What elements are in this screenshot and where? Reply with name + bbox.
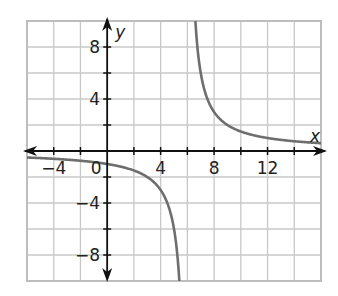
x-tick-label: 4 xyxy=(155,158,166,178)
y-tick-label: 4 xyxy=(89,89,100,109)
x-tick-label: 8 xyxy=(209,158,220,178)
rational-function-graph: −40481284−4−8xy xyxy=(0,0,338,296)
x-tick-label: −4 xyxy=(41,158,66,178)
x-tick-label: 0 xyxy=(91,158,102,178)
x-tick-label: 12 xyxy=(257,158,279,178)
y-tick-label: −8 xyxy=(75,245,100,265)
y-axis-label: y xyxy=(114,22,126,42)
x-axis-label: x xyxy=(309,126,321,146)
y-tick-label: 8 xyxy=(89,37,100,57)
y-tick-label: −4 xyxy=(75,193,100,213)
